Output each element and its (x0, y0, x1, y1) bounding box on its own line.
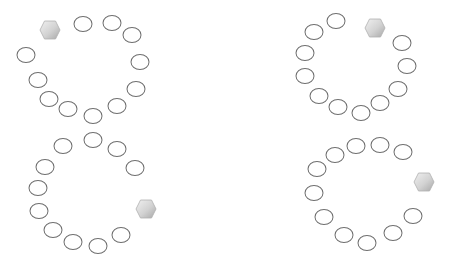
ring-icon (398, 58, 417, 74)
ring-icon (310, 88, 329, 104)
ring-icon (329, 99, 348, 115)
ring-icon (44, 222, 63, 238)
ring-icon (84, 132, 103, 148)
ring-icon (17, 47, 36, 63)
ring-icon (131, 54, 150, 70)
ring-icon (305, 24, 324, 40)
hexagon-icon (39, 20, 61, 40)
ring-icon (64, 234, 83, 250)
ring-icon (108, 141, 127, 157)
ring-icon (103, 15, 122, 31)
ring-icon (358, 235, 377, 251)
ring-icon (123, 27, 142, 43)
ring-icon (308, 161, 327, 177)
ring-icon (305, 185, 324, 201)
canvas (0, 0, 456, 269)
ring-icon (296, 45, 315, 61)
ring-icon (327, 13, 346, 29)
ring-icon (326, 147, 345, 163)
ring-icon (29, 180, 48, 196)
ring-icon (84, 108, 103, 124)
ring-icon (29, 72, 48, 88)
ring-icon (36, 159, 55, 175)
ring-icon (404, 208, 423, 224)
ring-icon (384, 225, 403, 241)
hexagon-icon (364, 18, 386, 38)
ring-icon (352, 105, 371, 121)
ring-icon (74, 16, 93, 32)
ring-icon (89, 238, 108, 254)
ring-icon (112, 227, 131, 243)
hexagon-icon (135, 199, 157, 219)
ring-icon (40, 91, 59, 107)
ring-icon (296, 68, 315, 84)
ring-icon (389, 81, 408, 97)
ring-icon (371, 137, 390, 153)
ring-icon (126, 160, 145, 176)
ring-icon (127, 81, 146, 97)
hexagon-icon (413, 172, 435, 192)
ring-icon (371, 95, 390, 111)
ring-icon (393, 35, 412, 51)
ring-icon (59, 101, 78, 117)
ring-icon (394, 144, 413, 160)
ring-icon (315, 209, 334, 225)
ring-icon (108, 98, 127, 114)
ring-icon (54, 138, 73, 154)
ring-icon (30, 203, 49, 219)
ring-icon (347, 138, 366, 154)
ring-icon (335, 227, 354, 243)
